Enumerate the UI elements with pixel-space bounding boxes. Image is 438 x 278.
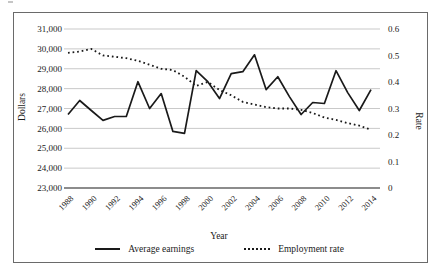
x-tick-label: 2008 (289, 193, 308, 212)
y-right-tick-label: 0.3 (388, 104, 400, 114)
x-tick-label: 2000 (196, 193, 215, 212)
legend-label: Employment rate (278, 244, 344, 254)
x-tick-label: 1988 (56, 193, 75, 212)
y-left-tick-label: 28,000 (37, 84, 62, 94)
y-left-tick-label: 25,000 (37, 143, 62, 153)
x-axis-title: Year (210, 231, 228, 241)
y-left-tick-label: 27,000 (37, 104, 62, 114)
y-left-tick-label: 23,000 (37, 183, 62, 193)
x-tick-label: 2010 (313, 193, 332, 212)
legend-item-average-earnings: Average earnings (95, 244, 194, 254)
y-left-tick-label: 31,000 (37, 24, 62, 34)
y-left-tick-label: 26,000 (37, 124, 62, 134)
average-earnings-line (68, 55, 371, 134)
x-tick-label: 2006 (266, 193, 285, 212)
x-tick-label: 1998 (173, 193, 192, 212)
y-right-tick-label: 0.2 (388, 130, 399, 140)
solid-line-swatch (95, 248, 120, 250)
y-left-tick-label: 29,000 (37, 64, 62, 74)
y-axis-title-right: Rate (414, 112, 424, 129)
y-left-tick-label: 24,000 (37, 163, 62, 173)
y-right-tick-label: 0.1 (388, 157, 399, 167)
y-right-tick-label: 0.4 (388, 77, 400, 87)
chart-legend: Average earnings Employment rate (13, 244, 426, 254)
y-left-tick-label: 30,000 (37, 44, 62, 54)
legend-label: Average earnings (128, 244, 194, 254)
legend-item-employment-rate: Employment rate (244, 244, 344, 254)
y-axis-title-left: Dollars (17, 93, 27, 121)
figure-page: 31,00030,00029,00028,00027,00026,00025,0… (0, 0, 438, 278)
x-tick-label: 2012 (336, 193, 355, 212)
x-tick-label: 1992 (103, 193, 122, 212)
x-tick-label: 2004 (243, 193, 263, 213)
x-tick-label: 2014 (359, 193, 379, 213)
x-tick-label: 1994 (126, 193, 146, 213)
x-tick-label: 2002 (219, 193, 238, 212)
dotted-line-swatch (244, 248, 270, 250)
x-tick-label: 1990 (80, 193, 99, 212)
y-right-tick-label: 0.6 (388, 24, 400, 34)
y-right-tick-label: 0 (388, 183, 393, 193)
y-right-tick-label: 0.5 (388, 51, 400, 61)
x-tick-label: 1996 (150, 193, 169, 212)
